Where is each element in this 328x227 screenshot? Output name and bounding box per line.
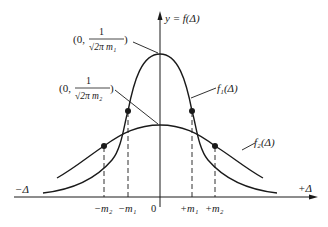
svg-text:√2π m₁: √2π m₁ [89,42,116,52]
leader-f1-label [191,88,216,98]
tick-label-plus-m1: +m₁ [180,203,198,214]
f2-point-right [212,143,218,149]
f1-point-right [189,108,195,114]
tick-label-minus-m1: −m₁ [118,203,136,214]
x-axis [14,195,318,200]
f1-point-left [125,108,131,114]
tick-label-minus-m2: −m₂ [94,203,113,214]
y-axis-label: y = f(Δ) [164,12,200,25]
svg-text:1: 1 [99,26,104,37]
x-axis-negative-label: −Δ [15,183,29,195]
peak-label-f1: (0, 1 √2π m₁ ) [73,26,128,52]
curve-label-f1: f₁(Δ) [217,82,238,95]
svg-text:): ) [124,33,128,46]
x-axis-positive-label: +Δ [298,182,312,194]
svg-text:√2π m₂: √2π m₂ [75,91,103,101]
leader-peak-f1 [133,42,158,53]
f2-point-left [101,143,107,149]
normal-distribution-diagram: y = f(Δ) (0, 1 √2π m₁ ) (0, 1 √2π m₂ ) f… [0,0,328,227]
curve-label-f2: f₂(Δ) [254,136,275,149]
peak-label-f2: (0, 1 √2π m₂ ) [59,75,114,101]
svg-text:(0,: (0, [73,33,85,46]
x-axis-arrow-icon [309,195,318,200]
origin-label: 0 [151,203,156,214]
svg-text:(0,: (0, [59,82,71,95]
leader-peak-f2 [115,90,158,124]
y-axis-arrow-icon [158,11,163,20]
tick-label-plus-m2: +m₂ [205,203,224,214]
svg-text:1: 1 [86,75,91,86]
y-axis [158,11,163,207]
svg-text:): ) [110,82,114,95]
